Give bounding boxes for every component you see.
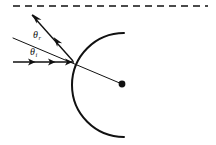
theta-i-subscript: i	[35, 51, 37, 58]
theta-r-symbol: θ	[33, 29, 38, 40]
theta-i-symbol: θ	[30, 46, 35, 57]
center-of-curvature-dot	[119, 81, 126, 88]
optics-figure: θr θi	[0, 0, 216, 145]
concave-mirror-arc	[72, 33, 124, 137]
theta-r-label: θr	[33, 29, 41, 41]
theta-r-subscript: r	[38, 34, 41, 41]
reflected-ray-arrow-1	[54, 37, 63, 47]
reflected-ray-arrow-2	[32, 14, 41, 24]
optics-diagram-canvas: θr θi	[0, 0, 216, 145]
